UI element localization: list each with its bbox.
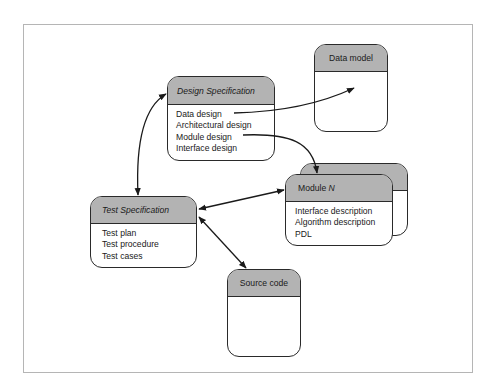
arrow-test-spec-module-n — [199, 190, 284, 209]
connector-arrows — [0, 0, 498, 387]
arrow-module-design-to-module-n — [243, 135, 317, 173]
arrow-design-spec-test-spec — [138, 94, 166, 195]
arrow-test-spec-source-code — [199, 217, 246, 268]
arrow-data-design-to-data-model — [234, 88, 354, 113]
